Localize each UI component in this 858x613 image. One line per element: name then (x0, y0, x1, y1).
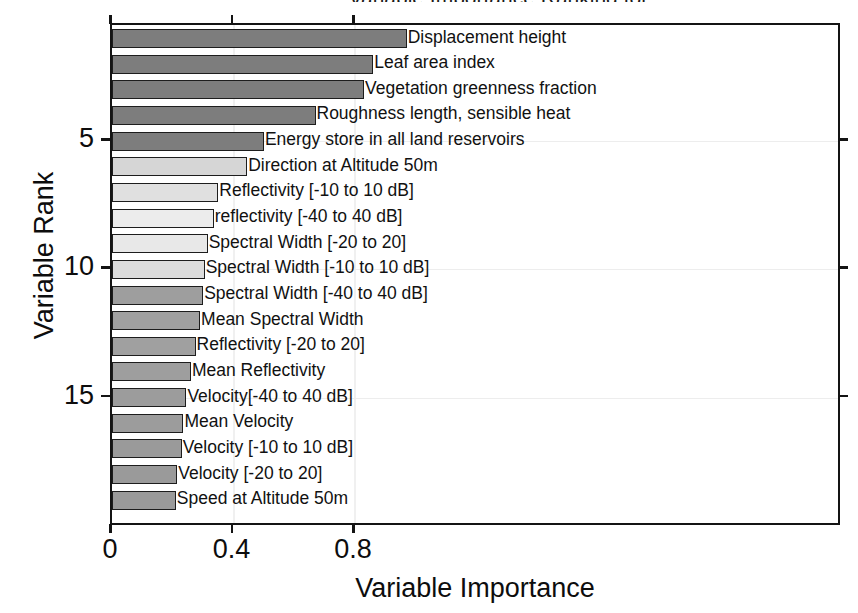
bar-label: Velocity [-10 to 10 dB] (183, 438, 353, 457)
bar-label: Speed at Altitude 50m (177, 489, 348, 508)
chart-title: Variable Importance Ranking for ... (300, 0, 720, 2)
bar (112, 260, 205, 279)
x-axis-tick (109, 524, 112, 533)
x-axis-tick-top (109, 15, 112, 24)
bar-label: Velocity [-20 to 20] (178, 464, 322, 483)
bar (112, 388, 186, 407)
x-axis-tick (231, 524, 234, 533)
bar-label: reflectivity [-40 to 40 dB] (215, 207, 403, 226)
chart-page: Variable Importance Ranking for ... Disp… (0, 0, 858, 613)
bar (112, 234, 208, 253)
bar-label: Spectral Width [-40 to 40 dB] (204, 284, 428, 303)
bar (112, 286, 203, 305)
bar-label: Reflectivity [-20 to 20] (197, 335, 365, 354)
y-axis-tick (101, 395, 111, 398)
x-axis-tick-top (231, 15, 234, 24)
y-axis-tick-right (838, 395, 848, 398)
bar (112, 414, 183, 433)
bar (112, 362, 191, 381)
bar (112, 311, 200, 330)
bar (112, 209, 214, 228)
x-axis-title: Variable Importance (110, 573, 840, 604)
bar (112, 439, 182, 458)
y-axis-tick (101, 266, 111, 269)
bar (112, 491, 176, 510)
bar-label: Mean Spectral Width (201, 310, 363, 329)
bar (112, 465, 177, 484)
bar-label: Energy store in all land reservoirs (265, 130, 525, 149)
bar-label: Mean Velocity (184, 412, 293, 431)
x-axis-tick-top (352, 15, 355, 24)
bar (112, 80, 364, 99)
x-tick-label: 0.4 (192, 534, 272, 564)
bar (112, 55, 373, 74)
bar-label: Roughness length, sensible heat (317, 104, 571, 123)
bar (112, 132, 264, 151)
bar-label: Displacement height (408, 28, 567, 47)
bar (112, 183, 218, 202)
bar-label: Spectral Width [-10 to 10 dB] (206, 258, 430, 277)
bar-label: Spectral Width [-20 to 20] (209, 233, 406, 252)
bar-label: Reflectivity [-10 to 10 dB] (219, 181, 414, 200)
bar-label: Mean Reflectivity (192, 361, 325, 380)
y-axis-tick (101, 138, 111, 141)
x-tick-label: 0 (70, 534, 150, 564)
y-axis-tick-right (838, 138, 848, 141)
bar (112, 106, 316, 125)
bar-label: Direction at Altitude 50m (248, 156, 438, 175)
bar-label: Vegetation greenness fraction (365, 79, 597, 98)
bar-label: Velocity[-40 to 40 dB] (187, 387, 352, 406)
x-axis-tick (352, 524, 355, 533)
bar-label: Leaf area index (374, 53, 495, 72)
x-tick-label: 0.8 (313, 534, 393, 564)
bar (112, 29, 407, 48)
bar (112, 337, 196, 356)
bar (112, 157, 247, 176)
y-axis-title: Variable Rank (29, 126, 60, 386)
y-axis-tick-right (838, 266, 848, 269)
